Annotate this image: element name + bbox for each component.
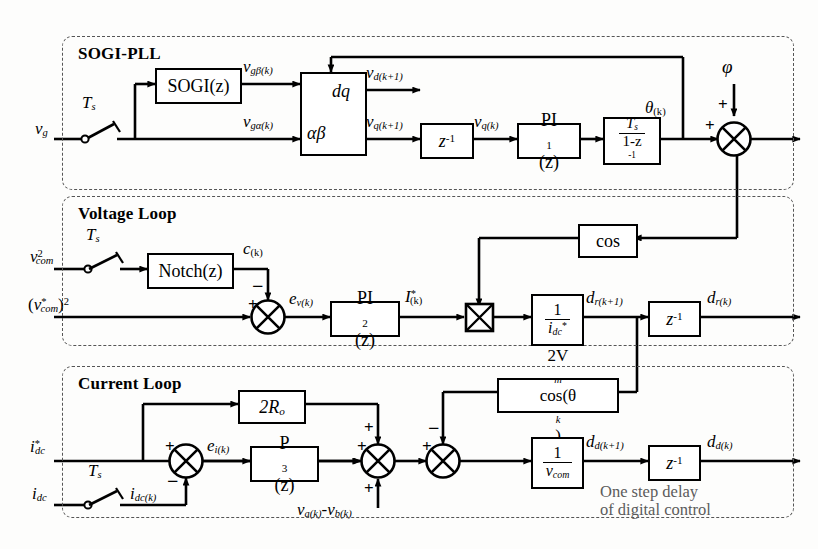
- label-vcom2: v2com: [30, 248, 53, 267]
- label-vgbeta: vgβ(k): [243, 58, 273, 77]
- sign-sum2-left-plus: +: [357, 438, 367, 455]
- block-integrator[interactable]: Ts 1-z-1: [603, 117, 661, 165]
- block-dq-label: dq: [332, 82, 350, 100]
- diagram-canvas: SOGI-PLL Voltage Loop Current Loop SOGI(…: [0, 0, 818, 549]
- label-phi: φ: [722, 57, 733, 76]
- label-va-vb: va(k)-vb(k): [297, 501, 352, 520]
- sign-voltage-ref-plus: +: [248, 296, 258, 313]
- sign-sum3-left-plus: +: [422, 438, 432, 455]
- block-notch-z[interactable]: Notch(z): [147, 253, 234, 289]
- block-integrator-num-sub: s: [634, 122, 638, 132]
- label-idc-ref: i*dc: [30, 438, 45, 457]
- label-idc: idc: [32, 485, 47, 504]
- block-integrator-den-exp: -1: [628, 150, 636, 160]
- block-delay-voltage[interactable]: z-1: [648, 301, 701, 337]
- block-cos-label: cos: [596, 231, 620, 252]
- block-delay-pll-exp: -1: [446, 131, 455, 143]
- sign-sum3-top-minus: −: [428, 418, 439, 438]
- sign-phi-plus: +: [718, 96, 728, 113]
- group-title-sogi-pll: SOGI-PLL: [78, 44, 161, 64]
- label-theta-k: θ(k): [645, 99, 666, 118]
- block-p3[interactable]: P3(z): [250, 446, 319, 482]
- annotation-line-1: One step delay: [600, 483, 711, 501]
- label-vcom-ref: (v*com)2: [28, 296, 69, 315]
- annotation-one-step-delay: One step delay of digital control: [600, 483, 711, 520]
- block-notch-z-label: Notch(z): [159, 261, 223, 282]
- block-pi1-label: PI: [539, 110, 559, 131]
- group-frame-sogi-pll: [62, 36, 794, 190]
- sign-sum2-top-plus: +: [364, 419, 374, 436]
- label-sampler-ts-pll: Ts: [82, 94, 96, 113]
- block-alphabeta-label: αβ: [307, 124, 325, 142]
- label-vq-k: vq(k): [474, 113, 499, 132]
- block-pi1-tail: (z): [539, 152, 559, 173]
- sign-voltage-notch-minus: −: [252, 276, 263, 296]
- annotation-line-2: of digital control: [600, 501, 711, 519]
- block-pi1-sub: 1: [546, 139, 552, 151]
- label-c-k: c(k): [243, 240, 263, 259]
- label-idc-k: idc(k): [130, 485, 156, 504]
- label-vg: vg: [35, 120, 48, 139]
- block-pi2[interactable]: PI2(z): [330, 301, 400, 337]
- label-dd-kp1: dd(k+1): [586, 433, 624, 452]
- sign-current-fb-minus: −: [167, 471, 178, 491]
- block-pi1[interactable]: PI1(z): [517, 123, 581, 159]
- sign-theta-plus: +: [705, 117, 715, 134]
- label-vgalpha: vgα(k): [243, 113, 273, 132]
- label-sampler-ts-current: Ts: [88, 462, 102, 481]
- block-gain-inv-vcom[interactable]: 1 vcom: [531, 437, 584, 489]
- block-sogi-z[interactable]: SOGI(z): [155, 68, 242, 104]
- label-dd-k: dd(k): [707, 433, 732, 452]
- label-sampler-ts-voltage: Ts: [86, 226, 100, 245]
- block-sogi-z-label: SOGI(z): [168, 76, 230, 97]
- block-delay-current[interactable]: z-1: [648, 445, 701, 481]
- block-gain-inv-idc[interactable]: 1 idc*: [531, 294, 584, 346]
- label-ev-k: ev(k): [289, 290, 313, 309]
- label-ei-k: ei(k): [207, 437, 229, 456]
- group-title-voltage-loop: Voltage Loop: [78, 204, 177, 224]
- block-cos[interactable]: cos: [578, 224, 638, 258]
- label-vq-kp1: vq(k+1): [366, 113, 403, 132]
- block-2vm-cos-theta[interactable]: 2Vmcos(θk): [497, 378, 619, 413]
- block-delay-pll-label: z: [439, 131, 446, 151]
- block-gain-2Ro[interactable]: 2Ro: [238, 390, 306, 424]
- block-integrator-den: 1-z: [622, 134, 641, 150]
- label-I-star: I*(k): [405, 288, 422, 307]
- label-dr-k: dr(k): [707, 289, 731, 308]
- group-title-current-loop: Current Loop: [78, 374, 182, 394]
- label-vd: vd(k+1): [366, 64, 403, 83]
- sign-current-ref-plus: +: [165, 438, 175, 455]
- label-dr-kp1: dr(k+1): [586, 289, 623, 308]
- sign-sum2-bottom-plus: +: [364, 480, 374, 497]
- block-delay-pll[interactable]: z-1: [420, 123, 474, 159]
